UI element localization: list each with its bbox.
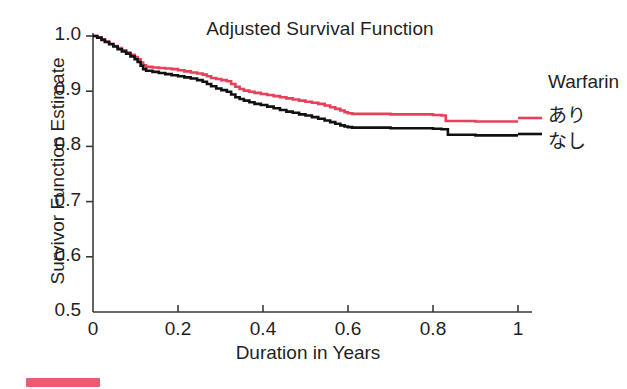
- axes-group: [86, 33, 532, 312]
- series-line-ari: [93, 36, 518, 122]
- y-tick-label: 0.6: [25, 244, 81, 266]
- x-axis-label: Duration in Years: [193, 342, 423, 364]
- legend-title: Warfarin: [548, 71, 619, 93]
- x-tick-marks: [178, 305, 518, 312]
- caption-strip: [0, 372, 627, 389]
- y-axis-label: Survivor Function Estimate: [47, 21, 69, 321]
- y-tick-label: 0.7: [25, 189, 81, 211]
- x-tick-label: 0.2: [148, 318, 208, 340]
- y-tick-label: 0.8: [25, 133, 81, 155]
- caption-color-swatch: [26, 378, 100, 387]
- legend-line-samples: [518, 118, 542, 134]
- x-tick-label: 0.6: [318, 318, 378, 340]
- x-tick-label: 1: [488, 318, 548, 340]
- x-tick-label: 0.8: [403, 318, 463, 340]
- x-tick-label: 0.4: [233, 318, 293, 340]
- series-group: [93, 36, 518, 135]
- x-tick-label: 0: [63, 318, 123, 340]
- legend-entry-nashi: なし: [548, 126, 586, 153]
- y-tick-label: 1.0: [25, 23, 81, 45]
- y-tick-label: 0.9: [25, 78, 81, 100]
- figure-container: Adjusted Survival Function Survivor Func…: [0, 0, 627, 389]
- legend-entry-ari: あり: [548, 100, 586, 127]
- chart-title: Adjusted Survival Function: [170, 18, 470, 40]
- y-tick-marks: [86, 36, 93, 257]
